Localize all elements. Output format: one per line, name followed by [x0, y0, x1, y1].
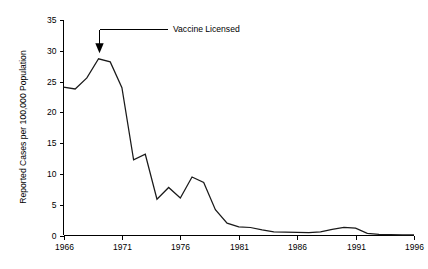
y-tick-label: 30 — [47, 46, 57, 56]
x-tick-label: 1966 — [55, 242, 74, 252]
y-tick-label: 35 — [47, 15, 57, 25]
x-tick-label: 1996 — [405, 242, 424, 252]
annotation-label: Vaccine Licensed — [173, 24, 240, 34]
x-tick-label: 1986 — [288, 242, 307, 252]
y-tick-label: 10 — [47, 169, 57, 179]
x-tick-label: 1971 — [113, 242, 132, 252]
y-tick-label: 25 — [47, 77, 57, 87]
x-tick-label: 1991 — [347, 242, 366, 252]
y-tick-label: 5 — [52, 200, 57, 210]
x-tick-label: 1976 — [171, 242, 190, 252]
chart-background — [0, 0, 428, 269]
line-chart: Reported Cases per 100,000 Population 05… — [0, 0, 428, 269]
y-axis-title: Reported Cases per 100,000 Population — [18, 50, 28, 204]
y-tick-label: 0 — [52, 231, 57, 241]
y-tick-label: 15 — [47, 138, 57, 148]
y-tick-label: 20 — [47, 107, 57, 117]
chart-container: Reported Cases per 100,000 Population 05… — [0, 0, 428, 269]
x-tick-label: 1981 — [230, 242, 249, 252]
